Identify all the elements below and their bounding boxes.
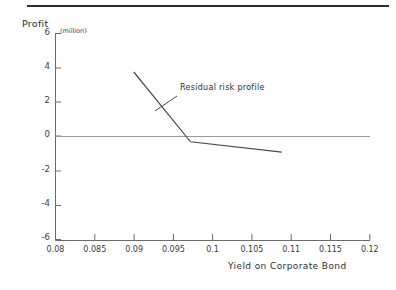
y-tick-label: -4 (28, 198, 50, 208)
x-tick-label: 0.115 (309, 245, 353, 254)
x-tick-label: 0.12 (348, 245, 392, 254)
x-tick-label: 0.1 (191, 245, 235, 254)
x-tick-label: 0.105 (230, 245, 274, 254)
x-tick-label: 0.08 (34, 245, 78, 254)
y-axis-unit-label: (million) (60, 27, 87, 35)
y-tick-label: -6 (28, 232, 50, 242)
y-tick-label: 2 (28, 95, 50, 105)
y-tick-label: 6 (28, 27, 50, 37)
annotation-residual-risk-profile: Residual risk profile (180, 83, 265, 92)
y-tick-label: 4 (28, 61, 50, 71)
x-tick-label: 0.11 (269, 245, 313, 254)
x-axis-title: Yield on Corporate Bond (228, 261, 347, 271)
x-tick-label: 0.095 (151, 245, 195, 254)
y-tick-label: -2 (28, 164, 50, 174)
annotation-leader-line (155, 96, 177, 111)
x-tick-label: 0.09 (112, 245, 156, 254)
x-tick-marks (56, 234, 370, 241)
chart-figure: Profit (million) Yield on Corporate Bond… (0, 0, 396, 290)
y-tick-label: 0 (28, 129, 50, 139)
x-tick-label: 0.085 (73, 245, 117, 254)
